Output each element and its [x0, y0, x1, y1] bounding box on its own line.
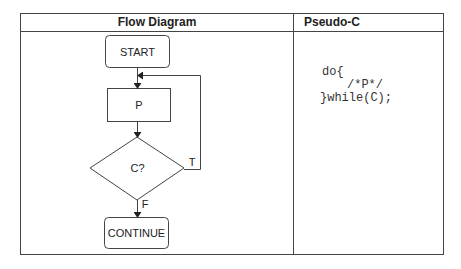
continue-label: CONTINUE — [108, 227, 165, 239]
flow-diagram: START P C? CONTINUE T F — [0, 0, 461, 269]
false-label: F — [142, 198, 149, 210]
start-label: START — [120, 46, 155, 58]
c-label: C? — [130, 162, 144, 174]
code-line-3: }while(C); — [320, 92, 392, 105]
true-label: T — [189, 156, 196, 168]
code-line-1: do{ — [322, 66, 344, 79]
p-label: P — [135, 99, 142, 111]
